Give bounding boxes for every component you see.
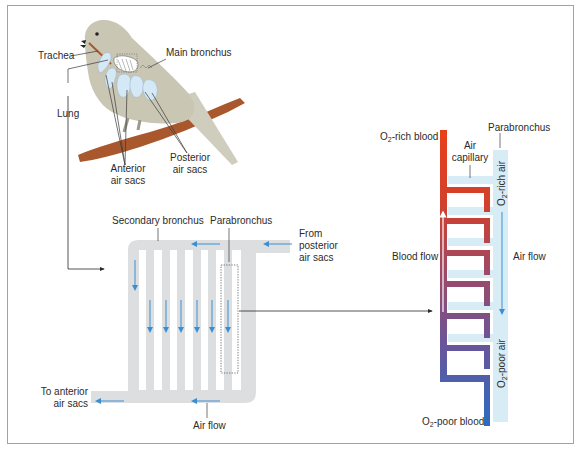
label-secondary-bronchus: Secondary bronchus bbox=[112, 215, 204, 227]
lung-zoom-pointer bbox=[68, 96, 104, 269]
label-main-bronchus: Main bronchus bbox=[166, 47, 232, 59]
label-from-posterior-air-sacs: From posterior air sacs bbox=[299, 228, 338, 264]
label-trachea: Trachea bbox=[38, 50, 74, 62]
diagram-artwork bbox=[0, 0, 580, 449]
label-anterior-air-sacs: Anterior air sacs bbox=[108, 163, 148, 187]
label-o2-rich-blood: O2-rich blood bbox=[380, 131, 438, 146]
label-posterior-air-sacs: Posterior air sacs bbox=[167, 152, 213, 176]
label-o2-poor-blood: O2-poor blood bbox=[422, 416, 484, 431]
label-air-capillary: Air capillary bbox=[450, 140, 490, 164]
bird-eye bbox=[95, 32, 99, 36]
label-air-flow-detail: Air flow bbox=[513, 251, 546, 263]
label-parabronchus-detail: Parabronchus bbox=[488, 122, 550, 134]
label-lung: Lung bbox=[57, 108, 79, 120]
label-o2-rich-air: O2-rich air bbox=[496, 161, 511, 206]
label-blood-flow: Blood flow bbox=[392, 251, 438, 263]
lung-schematic bbox=[91, 228, 432, 418]
label-to-anterior-air-sacs: To anterior air sacs bbox=[30, 386, 88, 410]
label-parabronchus-schematic: Parabronchus bbox=[210, 215, 272, 227]
label-o2-poor-air: O2-poor air bbox=[496, 339, 511, 388]
label-air-flow-schematic: Air flow bbox=[193, 420, 226, 432]
